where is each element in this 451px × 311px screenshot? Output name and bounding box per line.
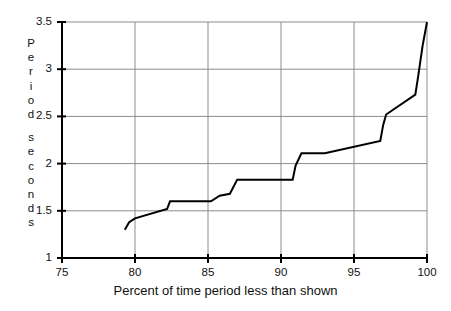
y-axis-tick-label: 1.5: [20, 204, 52, 216]
y-axis-tick-label: 3: [20, 62, 52, 74]
chart-axes: [62, 22, 427, 258]
chart-plot-area: [0, 0, 451, 311]
y-axis-title-char: i: [22, 79, 40, 93]
y-axis-tick-label: 1: [20, 251, 52, 263]
y-axis-tick-label: 2.5: [20, 109, 52, 121]
x-axis-tick-label: 85: [191, 266, 225, 278]
y-axis-title-char: o: [22, 173, 40, 187]
x-axis-tick-label: 75: [45, 266, 79, 278]
data-series-line: [125, 22, 427, 230]
y-axis-tick-label: 2: [20, 157, 52, 169]
y-axis-title-char: s: [22, 130, 40, 144]
y-axis-title-spacer: [22, 121, 40, 130]
y-axis-title-char: n: [22, 187, 40, 201]
x-axis-title: Percent of time period less than shown: [0, 283, 451, 298]
chart-container: P e r i o d s e c o n d s 11.522.533.5 7…: [0, 0, 451, 311]
x-axis-tick-label: 95: [337, 266, 371, 278]
y-axis-tick-label: 3.5: [20, 15, 52, 27]
y-axis-title-char: o: [22, 93, 40, 107]
x-axis-tick-label: 100: [410, 266, 444, 278]
x-axis-tick-label: 80: [118, 266, 152, 278]
x-axis-tick-label: 90: [264, 266, 298, 278]
y-axis-title-char: P: [22, 36, 40, 50]
y-axis-title-char: s: [22, 215, 40, 229]
